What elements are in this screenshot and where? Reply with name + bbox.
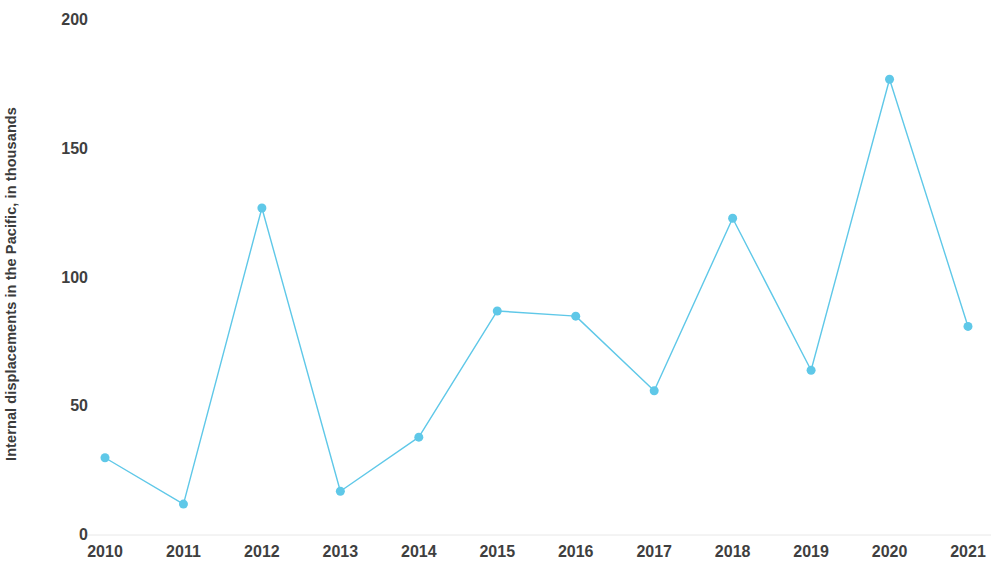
data-point-marker [807, 366, 816, 375]
line-chart: Internal displacements in the Pacific, i… [0, 0, 991, 567]
series-markers [101, 75, 973, 509]
data-point-marker [728, 214, 737, 223]
data-point-marker [257, 203, 266, 212]
data-point-marker [650, 386, 659, 395]
plot-area [0, 0, 991, 567]
data-point-marker [179, 500, 188, 509]
data-point-marker [571, 312, 580, 321]
data-point-marker [101, 453, 110, 462]
series-line [105, 79, 968, 504]
data-point-marker [493, 306, 502, 315]
data-point-marker [336, 487, 345, 496]
data-point-marker [885, 75, 894, 84]
data-point-marker [964, 322, 973, 331]
data-point-marker [414, 433, 423, 442]
